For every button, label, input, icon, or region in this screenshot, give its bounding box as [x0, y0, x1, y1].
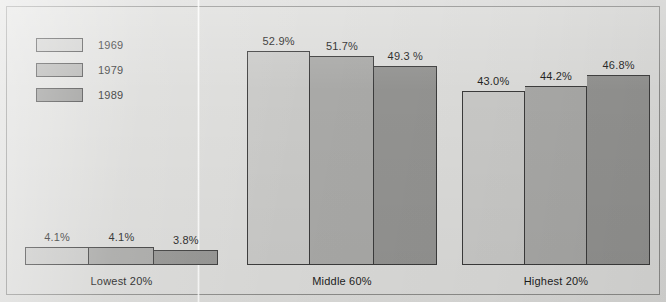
bar [247, 51, 310, 265]
bar-column: 46.8% [587, 35, 650, 265]
bar-column: 3.8% [154, 35, 218, 265]
bar-column: 4.1% [89, 35, 153, 265]
bar-value-label: 49.3 % [388, 50, 423, 62]
bar-column: 51.7% [310, 35, 373, 265]
bar [525, 86, 588, 265]
bar [25, 247, 89, 265]
bar-column: 44.2% [525, 35, 588, 265]
bar-value-label: 52.9% [263, 35, 295, 47]
bar-value-label: 43.0% [477, 75, 509, 87]
category-axis-label: Highest 20% [524, 275, 589, 287]
category-axis-label: Middle 60% [312, 275, 371, 287]
bar [310, 56, 373, 265]
bar-group-bars: 52.9%51.7%49.3 % [247, 35, 437, 265]
bar-group-bars: 4.1%4.1%3.8% [25, 35, 218, 265]
bar-value-label: 4.1% [109, 231, 135, 243]
bar [462, 91, 525, 265]
bar [587, 75, 650, 265]
bar-value-label: 51.7% [326, 40, 358, 52]
plot-area: 4.1%4.1%3.8%Lowest 20%52.9%51.7%49.3 %Mi… [0, 0, 666, 302]
bar [89, 247, 153, 265]
bar-group: 52.9%51.7%49.3 %Middle 60% [247, 35, 437, 265]
bar-value-label: 46.8% [603, 59, 635, 71]
bar-column: 49.3 % [374, 35, 437, 265]
bar-value-label: 3.8% [173, 234, 199, 246]
bar-column: 52.9% [247, 35, 310, 265]
bar-group-bars: 43.0%44.2%46.8% [462, 35, 650, 265]
bar-column: 43.0% [462, 35, 525, 265]
bar-column: 4.1% [25, 35, 89, 265]
category-axis-label: Lowest 20% [91, 275, 153, 287]
chart-figure: 196919791989 4.1%4.1%3.8%Lowest 20%52.9%… [0, 0, 666, 302]
bar [374, 66, 437, 265]
bar-value-label: 4.1% [44, 231, 70, 243]
bar-value-label: 44.2% [540, 70, 572, 82]
bar [154, 250, 218, 265]
bar-group: 43.0%44.2%46.8%Highest 20% [462, 35, 650, 265]
bar-group: 4.1%4.1%3.8%Lowest 20% [25, 35, 218, 265]
